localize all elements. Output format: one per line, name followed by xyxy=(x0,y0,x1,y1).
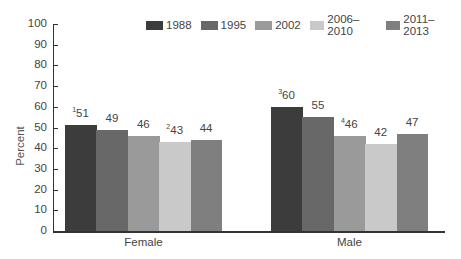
legend-item: 2006–2010 xyxy=(310,13,377,37)
legend-swatch xyxy=(386,21,401,30)
y-tick-label: 80 xyxy=(19,58,47,70)
category-label: Female xyxy=(65,236,222,248)
bar-value-label: 243 xyxy=(159,124,190,136)
bar xyxy=(271,107,303,231)
y-tick xyxy=(53,128,58,129)
bar-value-label: 446 xyxy=(334,118,365,130)
category-label: Male xyxy=(271,236,428,248)
legend-label: 1995 xyxy=(221,19,247,31)
legend-label: 2011–2013 xyxy=(403,13,452,37)
y-tick xyxy=(53,86,58,87)
y-tick-label: 0 xyxy=(19,224,47,236)
bar-value-label: 42 xyxy=(365,126,396,138)
bar xyxy=(365,144,397,231)
y-tick-label: 20 xyxy=(19,183,47,195)
legend-label: 2002 xyxy=(275,19,301,31)
bar xyxy=(191,140,223,231)
bar-value-label: 49 xyxy=(96,112,127,124)
legend-swatch xyxy=(201,21,218,30)
chart-legend: 1988199520022006–20102011–2013 xyxy=(146,13,461,37)
bar xyxy=(159,142,191,231)
y-tick-label: 100 xyxy=(19,17,47,29)
y-tick-label: 10 xyxy=(19,203,47,215)
y-tick xyxy=(53,169,58,170)
y-tick-label: 70 xyxy=(19,79,47,91)
bar-value-label: 151 xyxy=(65,107,96,119)
y-tick-label: 30 xyxy=(19,162,47,174)
y-tick xyxy=(53,45,58,46)
y-tick xyxy=(53,210,58,211)
y-tick-label: 50 xyxy=(19,121,47,133)
y-tick-label: 40 xyxy=(19,141,47,153)
bar-chart: 1988199520022006–20102011–2013 Percent 0… xyxy=(0,0,461,259)
y-tick xyxy=(53,24,58,25)
legend-item: 2002 xyxy=(255,19,301,31)
legend-swatch xyxy=(146,21,163,30)
legend-swatch xyxy=(310,21,325,30)
legend-item: 1995 xyxy=(201,19,247,31)
bar xyxy=(302,117,334,231)
bar-value-label: 55 xyxy=(302,99,333,111)
legend-item: 1988 xyxy=(146,19,192,31)
bar-value-label: 360 xyxy=(271,89,302,101)
y-tick xyxy=(53,231,58,232)
bar xyxy=(128,136,160,231)
bar-value-label: 46 xyxy=(128,118,159,130)
y-tick xyxy=(53,107,58,108)
bar-value-label: 47 xyxy=(397,116,428,128)
y-tick-label: 90 xyxy=(19,38,47,50)
bar xyxy=(334,136,366,231)
legend-swatch xyxy=(255,21,272,30)
legend-item: 2011–2013 xyxy=(386,13,452,37)
y-tick-label: 60 xyxy=(19,100,47,112)
legend-label: 1988 xyxy=(166,19,192,31)
y-tick xyxy=(53,148,58,149)
y-tick xyxy=(53,190,58,191)
bar xyxy=(65,125,97,231)
bar-value-label: 44 xyxy=(191,122,222,134)
legend-label: 2006–2010 xyxy=(327,13,376,37)
x-axis xyxy=(53,231,445,233)
bar xyxy=(96,130,128,231)
y-tick xyxy=(53,65,58,66)
bar xyxy=(397,134,429,231)
